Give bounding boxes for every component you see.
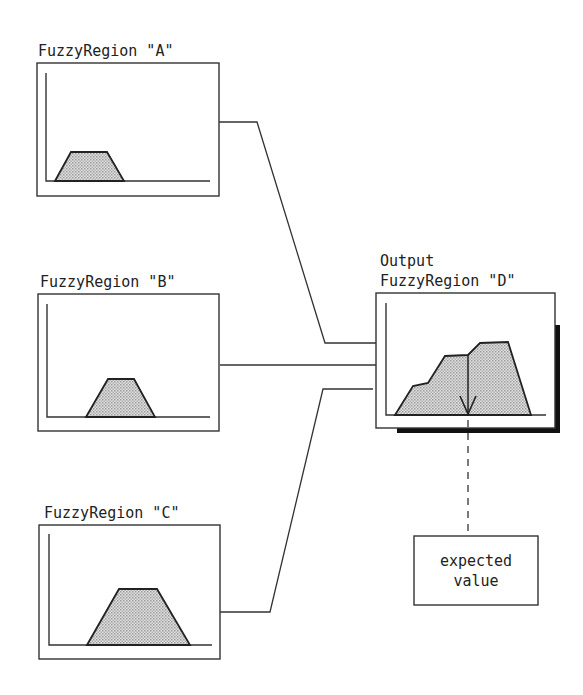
expected-value-box: expected value xyxy=(414,536,538,605)
fuzzy-aggregation-diagram: FuzzyRegion "A" FuzzyRegion "B" FuzzyReg… xyxy=(0,0,583,695)
output-box-shadow-right xyxy=(555,325,560,433)
output-label-line1: Output xyxy=(380,252,434,270)
region-c-label: FuzzyRegion "C" xyxy=(44,504,179,522)
output-box-shadow-bottom xyxy=(397,428,560,433)
expected-value-line1: expected xyxy=(440,552,512,570)
output-fuzzy-region-d: Output FuzzyRegion "D" xyxy=(376,252,560,433)
connector-a-to-d xyxy=(219,122,376,343)
region-b-label: FuzzyRegion "B" xyxy=(40,273,175,291)
fuzzy-region-b: FuzzyRegion "B" xyxy=(38,273,219,431)
expected-value-line2: value xyxy=(453,572,498,590)
connector-c-to-d xyxy=(220,389,373,612)
expected-value-rect xyxy=(414,536,538,605)
output-label-line2: FuzzyRegion "D" xyxy=(380,272,515,290)
fuzzy-region-a: FuzzyRegion "A" xyxy=(37,42,219,196)
fuzzy-region-c: FuzzyRegion "C" xyxy=(39,504,220,659)
region-a-label: FuzzyRegion "A" xyxy=(38,42,173,60)
